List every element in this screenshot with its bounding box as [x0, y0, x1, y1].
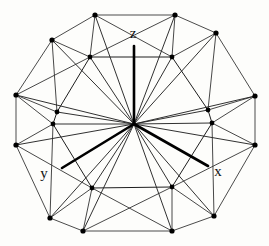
axis-rays: [62, 46, 208, 168]
vertex-dot: [170, 55, 175, 60]
axis-label-y: y: [40, 165, 48, 181]
figure-container: z y x: [0, 0, 269, 246]
vertex-dot: [252, 142, 257, 147]
vertex-dot: [206, 108, 211, 113]
vertex-dot: [80, 228, 85, 233]
axis-label-z: z: [130, 25, 137, 41]
vertex-dot: [13, 142, 18, 147]
vertex-dot: [252, 93, 257, 98]
vertex-dot: [210, 121, 215, 126]
polyhedron-projection-diagram: z y x: [0, 0, 269, 246]
vertex-dot: [92, 12, 97, 17]
vertex-dot: [213, 30, 218, 35]
vertex-dot: [13, 92, 18, 97]
axis-label-x: x: [214, 163, 222, 179]
vertex-dot: [172, 12, 177, 17]
vertex-dot: [169, 228, 174, 233]
vertex-dot: [170, 185, 175, 190]
vertex-dot: [211, 213, 216, 218]
vertex-dot: [47, 215, 52, 220]
vertex-dot: [49, 37, 54, 42]
vertex-dot: [51, 122, 56, 127]
vertex-dot: [88, 55, 93, 60]
vertex-dot: [55, 110, 60, 115]
vertex-dot: [90, 186, 95, 191]
